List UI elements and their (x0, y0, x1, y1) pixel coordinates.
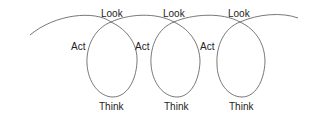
act-label-1: Act (71, 41, 85, 52)
act-label-2: Act (135, 41, 149, 52)
coil-diagram (0, 0, 310, 122)
lead-in-arc (30, 15, 111, 35)
look-label-2: Look (163, 8, 185, 19)
think-label-1: Think (99, 101, 123, 112)
look-label-1: Look (101, 8, 123, 19)
think-label-3: Think (229, 101, 253, 112)
loop-1 (87, 15, 174, 97)
act-label-3: Act (200, 41, 214, 52)
loop-3 (217, 15, 298, 97)
loop-2 (151, 15, 240, 97)
look-label-3: Look (228, 8, 250, 19)
think-label-2: Think (164, 101, 188, 112)
